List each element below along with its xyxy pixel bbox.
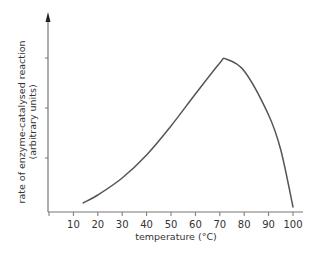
x-tick-label: 80 xyxy=(238,219,251,230)
enzyme-rate-chart: 102030405060708090100 temperature (°C) r… xyxy=(0,0,321,257)
rate-curve xyxy=(83,58,293,207)
y-axis-arrow-icon xyxy=(46,12,51,22)
x-tick-label: 60 xyxy=(189,219,202,230)
x-ticks: 102030405060708090100 xyxy=(49,212,303,230)
x-tick-label: 90 xyxy=(262,219,275,230)
y-axis-label-line1: rate of enzyme-catalysed reaction xyxy=(16,41,27,204)
x-tick-label: 40 xyxy=(140,219,153,230)
x-axis-label: temperature (°C) xyxy=(135,231,217,242)
x-tick-label: 70 xyxy=(213,219,226,230)
x-tick-label: 20 xyxy=(91,219,104,230)
x-tick-label: 10 xyxy=(67,219,80,230)
x-tick-label: 30 xyxy=(116,219,129,230)
axes xyxy=(46,12,304,212)
y-axis-label-line2: (arbitrary units) xyxy=(27,84,38,159)
x-tick-label: 50 xyxy=(165,219,178,230)
x-tick-label: 100 xyxy=(283,219,302,230)
